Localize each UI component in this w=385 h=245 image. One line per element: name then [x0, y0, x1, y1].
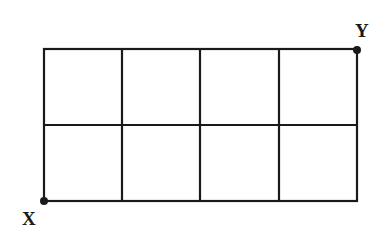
point-x-dot: [40, 197, 48, 205]
grid-diagram: X Y: [0, 0, 385, 245]
grid: [44, 49, 357, 201]
point-x-label: X: [22, 208, 36, 229]
point-y-label: Y: [355, 20, 369, 41]
point-y-dot: [353, 46, 361, 54]
